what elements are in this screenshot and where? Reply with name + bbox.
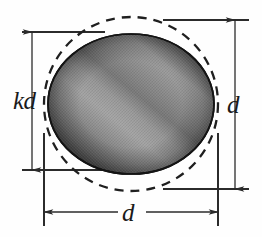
shaded-ellipse-group <box>48 34 214 174</box>
ellipse-dimension-diagram: kd d d <box>0 0 262 237</box>
dimension-label-kd: kd <box>13 88 36 113</box>
dimension-label-d-right: d <box>227 92 240 117</box>
dimension-label-d-bottom: d <box>122 200 135 225</box>
